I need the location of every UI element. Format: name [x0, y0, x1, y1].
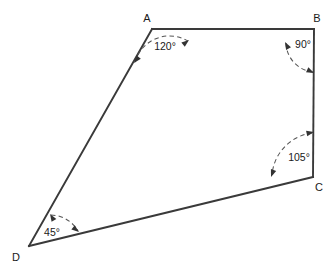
angle-label-C: 105° [288, 151, 310, 163]
angle-label-A: 120° [154, 40, 176, 52]
edge-BC [313, 29, 314, 177]
quadrilateral-figure: A B C D 120° 90° 105° 45° [0, 0, 336, 270]
vertex-label-C: C [315, 181, 323, 193]
angle-arc-arrowhead-A-end [181, 38, 190, 47]
vertex-label-A: A [143, 12, 151, 24]
edge-CD [29, 177, 313, 246]
angle-label-B: 90° [295, 38, 311, 50]
edge-DA [29, 29, 152, 246]
vertex-label-B: B [313, 12, 320, 24]
vertex-label-D: D [12, 251, 20, 263]
geometry-diagram-canvas: A B C D 120° 90° 105° 45° [0, 0, 336, 270]
angle-label-D: 45° [44, 226, 60, 238]
angle-arc-arrowhead-D-start [48, 213, 57, 222]
angle-arc-arrowhead-C-end [268, 169, 276, 178]
angle-arc-arrowhead-B-start [283, 41, 291, 50]
